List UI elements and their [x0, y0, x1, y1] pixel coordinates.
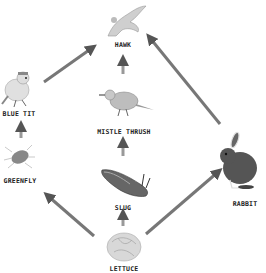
food-web-diagram: HAWK BLUE TIT MISTLE THRUSH GREENFLY SLU… [0, 0, 266, 273]
blue-tit-icon [2, 72, 29, 107]
rabbit-icon [220, 131, 257, 189]
arrow-blue-tit-to-hawk [44, 48, 92, 82]
lettuce-icon [107, 233, 141, 261]
slug-icon [102, 170, 150, 197]
hawk-icon [108, 6, 146, 36]
mistle-thrush-icon [99, 90, 154, 116]
arrow-rabbit-to-hawk [150, 38, 220, 124]
label-slug: SLUG [115, 204, 131, 212]
label-blue-tit: BLUE TIT [3, 110, 36, 118]
label-greenfly: GREENFLY [4, 177, 37, 185]
label-hawk: HAWK [115, 41, 131, 49]
arrow-lettuce-to-greenfly [48, 196, 94, 236]
arrows-layer [0, 0, 266, 273]
arrow-lettuce-to-rabbit [146, 172, 218, 234]
label-mistle-thrush: MISTLE THRUSH [97, 128, 150, 136]
greenfly-icon [4, 145, 35, 168]
label-lettuce: LETTUCE [110, 265, 139, 273]
label-rabbit: RABBIT [233, 200, 258, 208]
